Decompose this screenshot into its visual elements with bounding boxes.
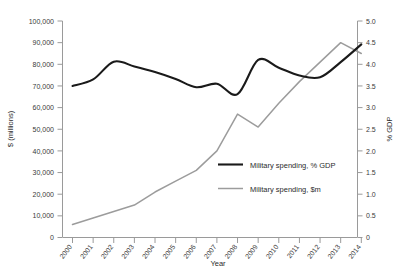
right-tick-label: 0.5 [366, 212, 376, 219]
left-tick-label: 60,000 [33, 104, 55, 111]
left-tick-label: 20,000 [33, 191, 55, 198]
right-tick-label: 3.5 [366, 83, 376, 90]
military-spending-chart: 010,00020,00030,00040,00050,00060,00070,… [0, 0, 401, 269]
right-tick-label: 3.0 [366, 104, 376, 111]
left-tick-label: 70,000 [33, 83, 55, 90]
right-tick-label: 4.5 [366, 39, 376, 46]
right-tick-label: 1.0 [366, 191, 376, 198]
right-tick-label: 2.5 [366, 126, 376, 133]
right-tick-label: 1.5 [366, 169, 376, 176]
x-axis-title: Year [210, 259, 226, 268]
left-tick-label: 80,000 [33, 61, 55, 68]
left-tick-label: 50,000 [33, 126, 55, 133]
left-tick-label: 10,000 [33, 212, 55, 219]
legend-label-usd: Military spending, $m [250, 185, 321, 194]
left-axis-title: $ (millions) [6, 110, 15, 147]
right-tick-label: 5.0 [366, 18, 376, 25]
left-tick-label: 90,000 [33, 39, 55, 46]
right-tick-label: 0 [366, 234, 370, 241]
left-tick-label: 100,000 [29, 18, 54, 25]
left-tick-label: 0 [50, 234, 54, 241]
legend-label-gdp: Military spending, % GDP [250, 161, 335, 170]
chart-background [0, 0, 401, 269]
right-tick-label: 2.0 [366, 148, 376, 155]
left-tick-label: 30,000 [33, 169, 55, 176]
left-tick-label: 40,000 [33, 148, 55, 155]
right-tick-label: 4.0 [366, 61, 376, 68]
right-axis-title: % GDP [385, 116, 394, 141]
